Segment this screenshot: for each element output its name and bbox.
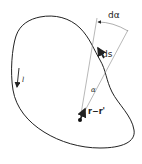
ds-label: ds bbox=[102, 49, 113, 59]
loop-diagram: dα ds α r−r' l bbox=[0, 0, 142, 164]
alpha-label: α bbox=[91, 86, 96, 94]
current-direction-arrow bbox=[17, 68, 19, 87]
field-point-dot bbox=[78, 118, 82, 122]
closed-loop-curve bbox=[12, 16, 135, 148]
d-alpha-arc bbox=[98, 22, 128, 31]
r-minus-r-prime-label: r−r' bbox=[88, 107, 105, 116]
current-loop-label: l bbox=[22, 76, 24, 84]
d-alpha-label: dα bbox=[108, 10, 120, 20]
